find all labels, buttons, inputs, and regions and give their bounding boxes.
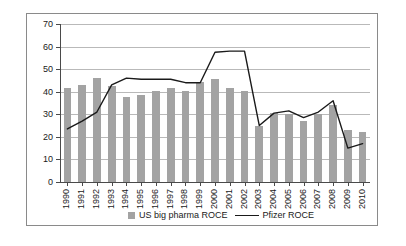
chart-legend: US big pharma ROCE Pfizer ROCE [128,210,314,220]
y-axis-tick-label: 40 [43,87,53,96]
x-axis-tick-mark [97,182,98,186]
y-axis-tick-label: 70 [43,20,53,29]
y-axis-tick-mark [56,92,60,93]
x-axis-tick-label: 2010 [358,189,367,209]
x-axis-tick-mark [156,182,157,186]
x-axis-tick-mark [259,182,260,186]
x-axis-tick-mark [363,182,364,186]
x-axis-tick-mark [200,182,201,186]
x-axis-tick-mark [67,182,68,186]
x-axis-tick-mark [274,182,275,186]
pfizer-roce-polyline [67,51,362,148]
plot-area [60,24,370,182]
x-axis-tick-mark [333,182,334,186]
x-axis-tick-label: 2002 [240,189,249,209]
x-axis-tick-label: 2007 [313,189,322,209]
x-axis-tick-mark [245,182,246,186]
y-axis-tick-label: 10 [43,155,53,164]
x-axis-tick-label: 1992 [92,189,101,209]
x-axis-tick-label: 1999 [195,189,204,209]
x-axis-tick-label: 1994 [121,189,130,209]
x-axis-tick-mark [112,182,113,186]
x-axis-tick-label: 2004 [269,189,278,209]
x-axis-tick-label: 2000 [210,189,219,209]
x-axis-tick-mark [82,182,83,186]
x-axis-tick-label: 2001 [225,189,234,209]
y-axis-tick-label: 20 [43,132,53,141]
y-axis-line [60,24,61,183]
line-series-pfizer-roce [60,24,370,182]
y-axis-tick-mark [56,182,60,183]
x-axis-tick-label: 2009 [343,189,352,209]
x-axis-tick-mark [215,182,216,186]
x-axis-tick-label: 1997 [166,189,175,209]
y-axis-tick-mark [56,69,60,70]
chart-figure: 010203040506070 199019911992199319941995… [0,0,406,246]
y-axis-tick-mark [56,47,60,48]
x-axis-tick-label: 1996 [151,189,160,209]
x-axis-tick-label: 1990 [62,189,71,209]
legend-label-pfizer-roce: Pfizer ROCE [263,210,315,220]
y-axis-tick-mark [56,159,60,160]
y-axis-tick-label: 50 [43,65,53,74]
x-axis-tick-mark [171,182,172,186]
x-axis-tick-mark [185,182,186,186]
x-axis-tick-label: 2003 [254,189,263,209]
x-axis-tick-label: 1993 [107,189,116,209]
y-axis-tick-mark [56,114,60,115]
x-axis-tick-label: 2008 [328,189,337,209]
y-axis-tick-label: 60 [43,42,53,51]
x-axis-tick-label: 1998 [180,189,189,209]
legend-item-pfizer-roce: Pfizer ROCE [235,210,315,220]
legend-line-icon [235,215,259,216]
y-axis-tick-mark [56,24,60,25]
x-axis-tick-mark [289,182,290,186]
x-axis-tick-mark [304,182,305,186]
x-axis-tick-label: 1995 [136,189,145,209]
x-axis-tick-mark [318,182,319,186]
x-axis-tick-mark [141,182,142,186]
x-axis-tick-label: 1991 [77,189,86,209]
x-axis-tick-label: 2005 [284,189,293,209]
y-axis-tick-label: 30 [43,110,53,119]
y-axis-tick-label: 0 [48,178,53,187]
legend-item-us-big-pharma-roce: US big pharma ROCE [128,210,228,220]
x-axis-tick-mark [126,182,127,186]
x-axis-tick-label: 2006 [299,189,308,209]
y-axis-tick-mark [56,137,60,138]
x-axis-tick-mark [348,182,349,186]
legend-label-us-big-pharma-roce: US big pharma ROCE [139,210,228,220]
x-axis-tick-mark [230,182,231,186]
legend-swatch-icon [128,212,135,219]
